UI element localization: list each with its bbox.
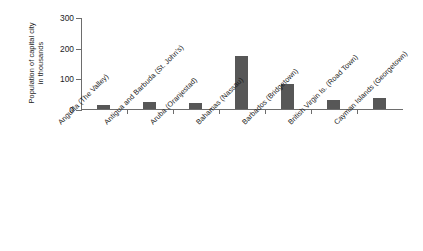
- chart-screenshot: Population of capital city in thousands …: [0, 0, 423, 251]
- y-axis-title-line-1: Population of capital city: [27, 22, 36, 103]
- y-tick-label-0: 0: [69, 105, 74, 115]
- x-tick-2: [219, 110, 220, 114]
- y-axis-title: Population of capital city in thousands: [18, 0, 54, 125]
- bar-aruba: [189, 103, 202, 109]
- bar-barbados: [281, 84, 294, 109]
- y-tick-label-200: 200: [60, 44, 74, 54]
- x-tick-4: [311, 110, 312, 114]
- bar-bahamas: [235, 56, 248, 109]
- bar-antigua: [143, 102, 156, 109]
- x-tick-5: [357, 110, 358, 114]
- y-axis-line: [81, 18, 82, 111]
- y-tick-label-300: 300: [60, 13, 74, 23]
- y-axis-title-line-2: in thousands: [36, 22, 45, 103]
- bar-cayman: [373, 98, 386, 109]
- x-tick-0: [127, 110, 128, 114]
- x-axis-line: [81, 109, 403, 110]
- bar-british-virgin: [327, 100, 340, 109]
- x-tick-3: [265, 110, 266, 114]
- y-tick-label-100: 100: [60, 74, 74, 84]
- bar-anguilla: [97, 105, 110, 109]
- plot-area: 0 100 200 300: [81, 18, 403, 110]
- x-tick-1: [173, 110, 174, 114]
